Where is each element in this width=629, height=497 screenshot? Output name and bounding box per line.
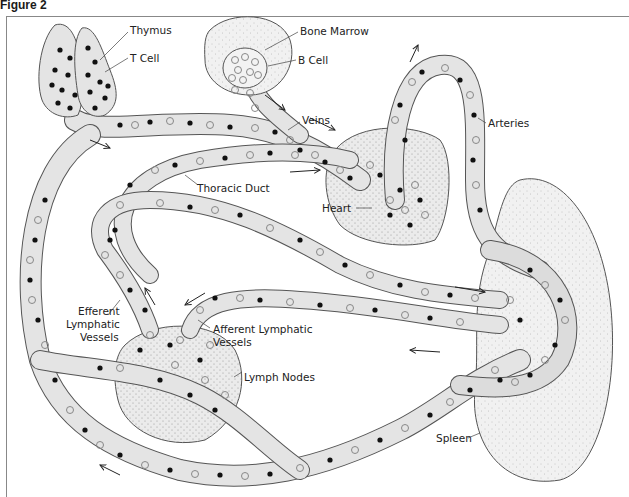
label-efferent-1: Efferent: [78, 305, 120, 317]
label-efferent-2: Lymphatic: [66, 318, 120, 330]
label-thymus: Thymus: [129, 24, 172, 36]
label-efferent-3: Vessels: [80, 331, 119, 343]
label-veins: Veins: [302, 114, 330, 126]
label-lymph-nodes: Lymph Nodes: [244, 371, 315, 383]
label-thoracic-duct: Thoracic Duct: [196, 182, 270, 194]
label-heart: Heart: [322, 202, 351, 214]
label-spleen: Spleen: [436, 432, 472, 444]
label-afferent-2: Vessels: [213, 336, 252, 348]
arrow-thoracic-duct: [290, 170, 320, 172]
lymphatic-circulation-diagram: Thymus T Cell Bone Marrow B Cell Veins A…: [0, 0, 629, 497]
thymus-organ: [39, 24, 116, 117]
label-arteries: Arteries: [488, 117, 529, 129]
arrow-arteries-up: [410, 45, 418, 62]
label-b-cell: B Cell: [298, 54, 328, 66]
arrow-bottom-left: [100, 465, 120, 475]
arrow-left: [410, 350, 440, 352]
label-afferent-1: Afferent Lymphatic: [213, 323, 313, 335]
label-bone-marrow: Bone Marrow: [300, 25, 369, 37]
label-t-cell: T Cell: [129, 52, 159, 64]
